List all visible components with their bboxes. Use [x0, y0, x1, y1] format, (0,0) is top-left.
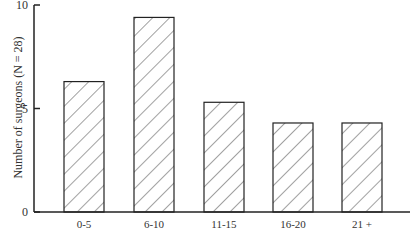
y-tick-label: 10 — [16, 0, 28, 12]
bar — [342, 123, 382, 212]
x-tick-label: 0-5 — [77, 218, 92, 230]
x-tick-label: 16-20 — [280, 218, 306, 230]
bar — [204, 102, 244, 212]
bar — [64, 82, 104, 212]
bar — [273, 123, 313, 212]
x-tick-label: 21 + — [352, 218, 372, 230]
y-tick-label: 5 — [22, 102, 28, 116]
x-tick-label: 11-15 — [211, 218, 237, 230]
bar — [134, 17, 174, 212]
y-tick-label: 0 — [22, 205, 28, 219]
bars: 0-56-1011-1516-2021 + — [64, 17, 382, 230]
bar-chart: 0510 0-56-1011-1516-2021 + — [0, 0, 416, 243]
x-tick-label: 6-10 — [144, 218, 165, 230]
